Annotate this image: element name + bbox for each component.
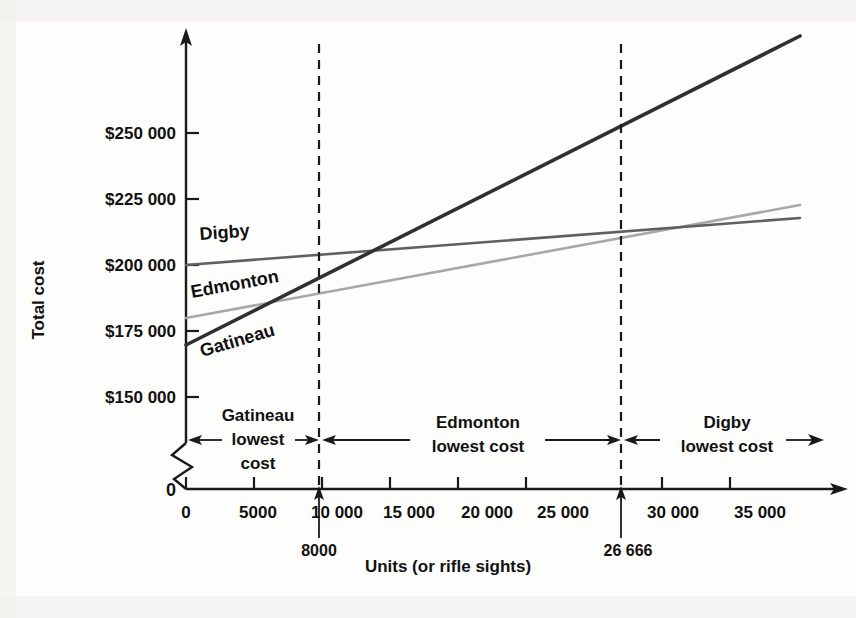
region-label-gatineau-line2: lowest	[232, 430, 285, 449]
series-label-digby: Digby	[199, 220, 250, 244]
x-tick-label-0: 0	[181, 503, 190, 522]
region-label-gatineau-line1: Gatineau	[222, 406, 295, 425]
y-axis-title: Total cost	[29, 260, 48, 339]
y-tick-label-225000: $225 000	[105, 190, 176, 209]
y-tick-label-175000: $175 000	[105, 322, 176, 341]
cost-comparison-chart: $250 000 $225 000 $200 000 $175 000 $150…	[0, 0, 856, 618]
crossover-label-8000: 8000	[301, 542, 337, 559]
region-label-digby-line1: Digby	[703, 413, 751, 432]
region-label-edmonton-line1: Edmonton	[436, 413, 520, 432]
x-tick-label-30000: 30 000	[647, 503, 699, 522]
region-label-edmonton-line2: lowest cost	[432, 437, 525, 456]
series-label-gatineau: Gatineau	[197, 320, 277, 361]
crossover-label-26666: 26 666	[604, 542, 653, 559]
y-tick-label-150000: $150 000	[105, 388, 176, 407]
series-label-edmonton: Edmonton	[189, 266, 280, 302]
x-tick-label-25000: 25 000	[537, 503, 589, 522]
y-axis-zero-label: 0	[166, 480, 176, 500]
x-tick-label-5000: 5000	[239, 503, 277, 522]
x-tick-label-20000: 20 000	[461, 503, 513, 522]
region-label-digby-line2: lowest cost	[681, 437, 774, 456]
region-label-gatineau-line3: cost	[241, 454, 276, 473]
x-axis-title: Units (or rifle sights)	[365, 557, 531, 576]
x-tick-label-15000: 15 000	[383, 503, 435, 522]
series-line-digby	[186, 218, 800, 265]
x-tick-label-35000: 35 000	[734, 503, 786, 522]
y-tick-label-250000: $250 000	[105, 124, 176, 143]
chart-page: $250 000 $225 000 $200 000 $175 000 $150…	[0, 0, 856, 618]
series-line-edmonton	[186, 205, 800, 318]
y-tick-label-200000: $200 000	[105, 256, 176, 275]
series-line-gatineau	[186, 36, 800, 345]
